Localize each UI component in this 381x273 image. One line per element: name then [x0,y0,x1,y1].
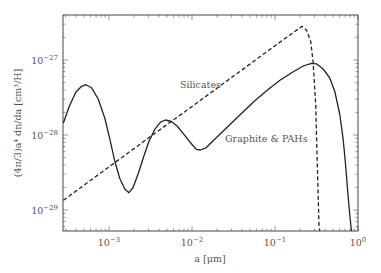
x-tick-label: 10−1 [264,236,286,248]
y-axis-title: (4π/3)a⁴ dn/da [cm³/H] [12,69,23,178]
silicates-curve [63,26,319,231]
y-tick-label: 10−29 [31,204,58,216]
plot-frame [63,15,358,231]
silicates-label: Silicates [180,79,221,90]
x-axis-title: a [μm] [194,253,225,264]
minor-ticks [63,15,358,231]
series-layer [63,26,351,231]
graphite-pahs-label: Graphite & PAHs [225,133,308,144]
x-tick-label: 100 [350,236,367,248]
y-tick-label: 10−27 [31,54,58,66]
size-distribution-chart: 10−310−210−1100 10−2710−2810−29 Silicate… [0,0,381,273]
y-tick-label: 10−28 [31,129,58,141]
major-ticks [63,15,358,231]
y-tick-labels: 10−2710−2810−29 [31,54,58,216]
x-tick-label: 10−2 [181,236,203,248]
x-tick-labels: 10−310−210−1100 [98,236,366,248]
x-tick-label: 10−3 [98,236,120,248]
